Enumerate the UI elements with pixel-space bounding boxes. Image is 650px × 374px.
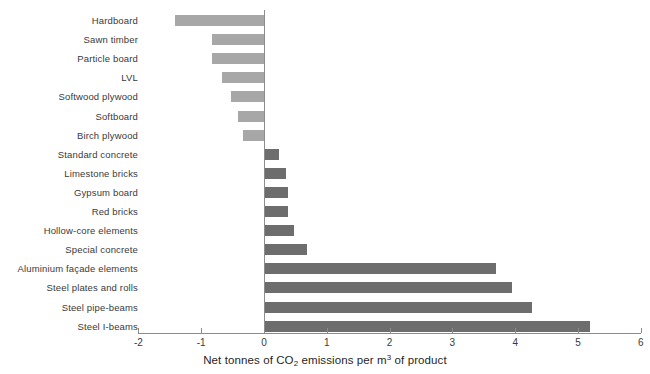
x-axis-tick (201, 328, 202, 333)
x-axis-tick-label: 3 (440, 337, 464, 348)
x-axis-tick-label: 2 (378, 337, 402, 348)
plot-area: -2-10123456 (0, 0, 650, 340)
bar (264, 168, 286, 179)
bar (264, 149, 279, 160)
x-axis-tick-label: -2 (126, 337, 150, 348)
bar (264, 263, 496, 274)
bar (264, 282, 512, 293)
bar (222, 72, 264, 83)
bar (231, 91, 264, 102)
zero-axis-line (264, 10, 265, 333)
x-axis-tick (138, 328, 139, 333)
bar (175, 15, 264, 26)
x-axis-tick (390, 328, 391, 333)
x-axis-tick (264, 328, 265, 333)
x-axis-tick (641, 328, 642, 333)
co2-emissions-bar-chart: HardboardSawn timberParticle boardLVLSof… (0, 0, 650, 374)
axis-title-superscript: 3 (387, 353, 392, 362)
axis-title-before: Net tonnes of CO (203, 354, 293, 366)
bar (212, 34, 264, 45)
x-axis-tick-label: 0 (252, 337, 276, 348)
axis-title-after: of product (391, 354, 446, 366)
x-axis-tick (515, 328, 516, 333)
x-axis-line (138, 333, 640, 334)
x-axis-title: Net tonnes of CO2 emissions per m3 of pr… (0, 354, 650, 366)
x-axis-tick (327, 328, 328, 333)
x-axis-tick-label: 5 (566, 337, 590, 348)
x-axis-tick (578, 328, 579, 333)
bar (264, 244, 307, 255)
x-axis-tick-label: 1 (315, 337, 339, 348)
bar (264, 225, 294, 236)
axis-title-middle: emissions per m (298, 354, 387, 366)
bar (238, 111, 264, 122)
bar (264, 187, 288, 198)
x-axis-tick-label: -1 (189, 337, 213, 348)
x-axis-tick-label: 4 (503, 337, 527, 348)
bar (264, 302, 532, 313)
bar (264, 321, 590, 332)
bar (212, 53, 264, 64)
x-axis-tick (452, 328, 453, 333)
bar (264, 206, 288, 217)
axis-title-subscript: 2 (294, 359, 299, 368)
bar (243, 130, 264, 141)
x-axis-tick-label: 6 (629, 337, 650, 348)
